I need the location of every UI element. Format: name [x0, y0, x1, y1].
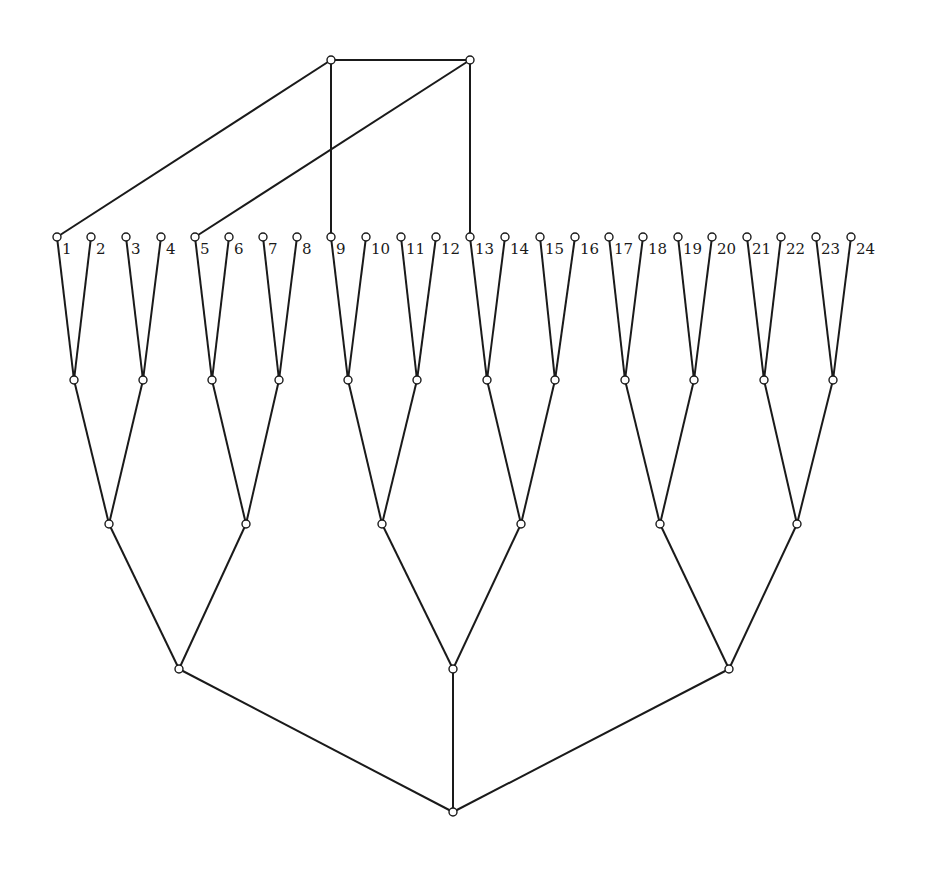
leaf-label: 3 [131, 240, 141, 258]
level1-node [413, 376, 421, 384]
edge [625, 380, 660, 524]
level1-node [275, 376, 283, 384]
edge [109, 380, 143, 524]
level1-node [208, 376, 216, 384]
level2-node [378, 520, 386, 528]
leaf-label: 4 [166, 240, 176, 258]
edge [833, 237, 851, 380]
edge [195, 237, 212, 380]
edge [348, 380, 382, 524]
edge [143, 237, 161, 380]
level2-node [793, 520, 801, 528]
level1-node [551, 376, 559, 384]
leaf-node-7 [259, 233, 267, 241]
edge [540, 237, 555, 380]
leaf-node-18 [639, 233, 647, 241]
edge [555, 237, 575, 380]
edge [625, 237, 643, 380]
edges [57, 60, 851, 812]
leaf-node-1 [53, 233, 61, 241]
leaf-label: 8 [302, 240, 312, 258]
edge [212, 380, 246, 524]
edge [764, 237, 781, 380]
leaf-label: 20 [717, 240, 736, 258]
edge [417, 237, 436, 380]
leaf-label: 21 [752, 240, 771, 258]
leaf-label: 12 [441, 240, 460, 258]
edge [660, 524, 729, 669]
edge [521, 380, 555, 524]
edge [179, 524, 246, 669]
leaf-label: 2 [96, 240, 106, 258]
leaf-node-2 [87, 233, 95, 241]
edge [453, 524, 521, 669]
leaf-node-14 [501, 233, 509, 241]
tree-diagram: 123456789101112131415161718192021222324 [0, 0, 927, 870]
level1-node [690, 376, 698, 384]
edge [279, 237, 297, 380]
edge [109, 524, 179, 669]
leaf-node-19 [674, 233, 682, 241]
leaf-label: 1 [62, 240, 72, 258]
leaf-node-4 [157, 233, 165, 241]
leaf-label: 6 [234, 240, 244, 258]
leaf-node-12 [432, 233, 440, 241]
edge [609, 237, 625, 380]
leaf-label: 5 [200, 240, 210, 258]
leaf-node-13 [466, 233, 474, 241]
edge [816, 237, 833, 380]
edge [74, 380, 109, 524]
leaf-node-21 [743, 233, 751, 241]
level3-node [449, 665, 457, 673]
leaf-label: 13 [475, 240, 494, 258]
level1-node [344, 376, 352, 384]
edge [401, 237, 417, 380]
level2-node [517, 520, 525, 528]
edge [179, 669, 453, 812]
level1-node [483, 376, 491, 384]
edge [382, 380, 417, 524]
leaf-label: 18 [648, 240, 667, 258]
leaf-label: 15 [545, 240, 564, 258]
edge [212, 237, 229, 380]
edge [57, 237, 74, 380]
edge [195, 60, 470, 237]
leaf-label: 11 [406, 240, 425, 258]
leaf-label: 16 [580, 240, 599, 258]
edge [694, 237, 712, 380]
leaf-node-9 [327, 233, 335, 241]
top-node [327, 56, 335, 64]
leaf-node-15 [536, 233, 544, 241]
leaf-label: 10 [371, 240, 390, 258]
edge [246, 380, 279, 524]
edge [487, 237, 505, 380]
leaf-node-5 [191, 233, 199, 241]
level2-node [105, 520, 113, 528]
leaf-node-8 [293, 233, 301, 241]
edge [487, 380, 521, 524]
level3-node [725, 665, 733, 673]
leaf-node-24 [847, 233, 855, 241]
leaf-label: 23 [821, 240, 840, 258]
leaf-node-20 [708, 233, 716, 241]
edge [382, 524, 453, 669]
level1-node [621, 376, 629, 384]
leaf-node-16 [571, 233, 579, 241]
leaf-label: 22 [786, 240, 805, 258]
edge [57, 60, 331, 237]
leaf-node-3 [122, 233, 130, 241]
edge [74, 237, 91, 380]
edge [348, 237, 366, 380]
level2-node [656, 520, 664, 528]
edge [797, 380, 833, 524]
edge [729, 524, 797, 669]
leaf-node-23 [812, 233, 820, 241]
edge [764, 380, 797, 524]
level1-node [139, 376, 147, 384]
leaf-label: 24 [856, 240, 875, 258]
level1-node [829, 376, 837, 384]
level3-node [175, 665, 183, 673]
leaf-label: 17 [614, 240, 633, 258]
root-node [449, 808, 457, 816]
top-node [466, 56, 474, 64]
